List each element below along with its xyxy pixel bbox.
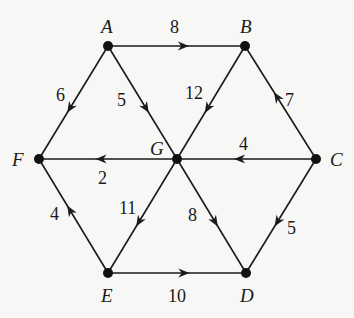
edge-c-to-d — [246, 159, 316, 273]
edge-weight-label: 12 — [185, 83, 203, 103]
node-g — [172, 154, 182, 164]
node-label-e: E — [100, 285, 113, 306]
edge-weight-label: 5 — [117, 90, 126, 110]
edge-weight-label: 8 — [170, 17, 179, 37]
node-e — [103, 268, 113, 278]
edge-weight-label: 6 — [56, 85, 65, 105]
arrowhead-icon — [67, 206, 77, 218]
arrowhead-icon — [139, 101, 149, 113]
node-label-a: A — [99, 16, 113, 37]
edge-weight-label: 8 — [188, 205, 197, 225]
edge-weight-label: 7 — [285, 90, 294, 110]
directed-graph-diagram: 865127421185410ABCDEFG — [0, 0, 354, 318]
arrowhead-icon — [208, 215, 218, 227]
node-label-c: C — [330, 149, 343, 170]
node-label-g: G — [150, 138, 164, 159]
node-a — [103, 41, 113, 51]
node-label-b: B — [240, 16, 252, 37]
node-d — [241, 268, 251, 278]
edge-weight-label: 4 — [239, 134, 248, 154]
edge-weight-label: 2 — [98, 168, 107, 188]
arrowhead-icon — [205, 101, 215, 113]
edge-a-to-f — [39, 46, 108, 159]
node-label-f: F — [11, 149, 24, 170]
edge-weight-label: 10 — [168, 286, 186, 306]
arrowhead-icon — [275, 215, 285, 227]
arrowhead-icon — [136, 215, 146, 227]
node-f — [34, 154, 44, 164]
edge-weight-label: 4 — [50, 204, 59, 224]
edge-c-to-b — [245, 46, 316, 159]
node-label-d: D — [239, 285, 254, 306]
node-b — [240, 41, 250, 51]
edge-weight-label: 11 — [119, 198, 136, 218]
arrowhead-icon — [274, 92, 284, 104]
edge-weight-label: 5 — [287, 218, 296, 238]
arrowhead-icon — [67, 101, 77, 113]
node-c — [311, 154, 321, 164]
